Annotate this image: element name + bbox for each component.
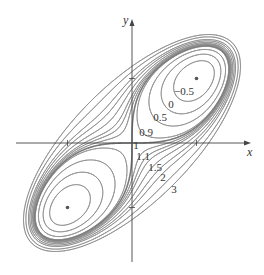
- contour-label: 0.5: [153, 111, 167, 123]
- minimum-point: [195, 77, 199, 81]
- contour-plot-canvas: −0.500.50.911.11.523 x y: [0, 0, 264, 275]
- contour-label: 0: [168, 98, 174, 110]
- y-axis-label: y: [122, 13, 129, 27]
- contour-label: −0.5: [174, 85, 194, 97]
- contour-label: 2: [160, 171, 166, 183]
- contour-label: 0.9: [139, 126, 153, 138]
- y-axis-arrow-icon: [130, 19, 135, 26]
- contour-plot: −0.500.50.911.11.523 x y: [0, 0, 264, 275]
- contour-label: 3: [171, 183, 177, 195]
- x-axis-label: x: [246, 145, 253, 159]
- minimum-point: [66, 206, 70, 210]
